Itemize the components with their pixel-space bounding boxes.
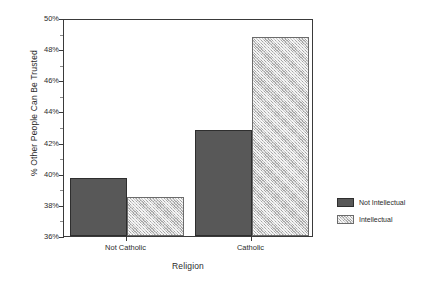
- bar: [252, 37, 309, 236]
- bar-chart: % Other People Can Be Trusted 50%48%46%4…: [0, 0, 422, 283]
- legend-item: Intellectual: [337, 214, 421, 225]
- y-axis-tick-label: 42%: [30, 140, 59, 148]
- y-axis-tick-labels: 50%48%46%44%42%40%38%36%: [30, 0, 59, 283]
- y-axis-tick-label: 48%: [30, 46, 59, 54]
- chart-legend: Not IntellectualIntellectual: [337, 197, 421, 231]
- x-axis-title: Religion: [63, 261, 313, 271]
- x-axis-tick-label: Catholic: [191, 243, 311, 252]
- legend-label: Not Intellectual: [359, 199, 405, 206]
- y-axis-tick-label: 44%: [30, 108, 59, 116]
- x-axis-tick: [251, 237, 252, 241]
- plot-area: [63, 19, 313, 237]
- legend-swatch-icon: [337, 215, 354, 224]
- legend-swatch-icon: [337, 198, 354, 207]
- bar: [195, 130, 252, 236]
- y-axis-major-tick: [59, 237, 64, 238]
- bars-layer: [64, 20, 312, 236]
- y-axis-tick-label: 46%: [30, 77, 59, 85]
- y-axis-tick-label: 38%: [30, 202, 59, 210]
- bar: [127, 197, 184, 236]
- legend-item: Not Intellectual: [337, 197, 421, 208]
- y-axis-tick-label: 40%: [30, 171, 59, 179]
- y-axis-tick-label: 50%: [30, 15, 59, 23]
- x-axis-tick-label: Not Catholic: [66, 243, 186, 252]
- bar: [70, 178, 127, 236]
- x-axis-tick: [126, 237, 127, 241]
- y-axis-tick-label: 36%: [30, 233, 59, 241]
- legend-label: Intellectual: [359, 216, 392, 223]
